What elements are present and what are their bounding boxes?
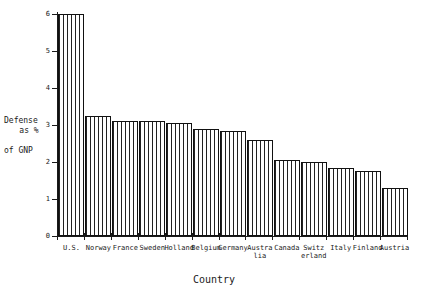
y-tick-label: 4: [40, 85, 50, 92]
bar: [328, 168, 354, 236]
bar-chart: Defense as % of GNP 0123456 U.S.NorwayFr…: [0, 0, 428, 299]
bar: [355, 171, 381, 236]
x-axis-title: Country: [0, 274, 428, 286]
y-tick-label: 1: [40, 196, 50, 203]
bar: [247, 140, 273, 236]
y-axis-title-line-3: of GNP: [4, 146, 54, 156]
x-axis-line: [57, 236, 408, 237]
y-axis-title-line-1: Defense: [4, 116, 38, 125]
bar: [274, 160, 300, 236]
y-axis-title: Defense as % of GNP: [4, 106, 54, 166]
x-category-label: Austria: [378, 244, 411, 252]
bar: [193, 129, 219, 236]
bar: [85, 116, 111, 236]
bar: [220, 131, 246, 236]
y-tick-label: 6: [40, 11, 50, 18]
bar: [139, 121, 165, 236]
y-tick-label: 0: [40, 233, 50, 240]
bar: [382, 188, 408, 236]
y-tick-label: 5: [40, 48, 50, 55]
bar: [166, 123, 192, 236]
y-tick-label: 3: [40, 122, 50, 129]
bar: [112, 121, 138, 236]
y-tick-label: 2: [40, 159, 50, 166]
bar: [58, 14, 84, 236]
bar: [301, 162, 327, 236]
